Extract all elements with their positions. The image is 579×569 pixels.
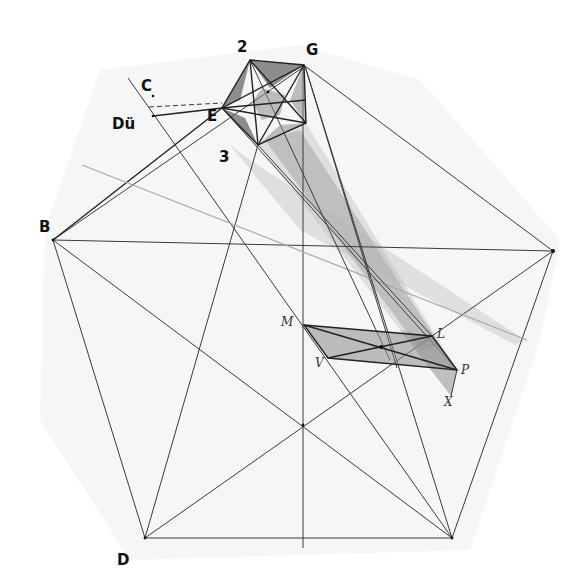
label-3: 3: [219, 148, 229, 166]
point-c: [152, 95, 155, 98]
label-b: B: [39, 218, 50, 236]
label-du: Dü: [112, 115, 135, 133]
label-m: M: [280, 315, 294, 329]
label-c: C: [141, 77, 152, 95]
diagram-canvas: 2 G C E Dü 3 B D M L V P X: [0, 0, 579, 569]
label-x: X: [443, 395, 453, 409]
construction-drawing: 2 G C E Dü 3 B D M L V P X: [0, 0, 579, 569]
label-e: E: [207, 107, 217, 125]
point-du: [152, 115, 155, 118]
label-g: G: [306, 41, 318, 59]
label-d: D: [117, 551, 129, 569]
label-v: V: [315, 356, 325, 370]
label-2: 2: [237, 38, 247, 56]
label-p: P: [460, 363, 470, 377]
parallelogram-center: [379, 345, 383, 349]
label-l: L: [436, 327, 445, 341]
